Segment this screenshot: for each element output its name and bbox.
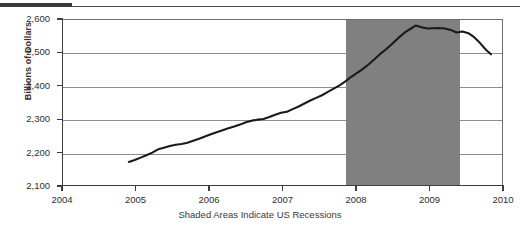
y-tick-label: 2,600 xyxy=(10,13,50,24)
x-tick-mark xyxy=(135,185,136,191)
x-tick-label: 2008 xyxy=(334,194,378,205)
y-tick-label: 2,300 xyxy=(10,113,50,124)
top-divider-heavy-segment xyxy=(0,3,72,7)
x-tick-mark xyxy=(208,185,209,191)
x-tick-label: 2010 xyxy=(481,194,520,205)
x-tick-mark xyxy=(61,185,62,191)
y-tick-label: 2,100 xyxy=(10,180,50,191)
x-tick-mark xyxy=(355,185,356,191)
plot-area xyxy=(62,19,503,186)
chart-figure: Billions of Dollars 2,1002,2002,3002,400… xyxy=(0,0,520,234)
chart-caption: Shaded Areas Indicate US Recessions xyxy=(0,209,520,220)
data-line-series xyxy=(63,20,502,185)
x-tick-mark xyxy=(429,185,430,191)
x-tick-label: 2007 xyxy=(261,194,305,205)
x-tick-mark xyxy=(502,185,503,191)
y-tick-label: 2,500 xyxy=(10,46,50,57)
y-tick-label: 2,200 xyxy=(10,147,50,158)
x-tick-label: 2006 xyxy=(187,194,231,205)
x-tick-mark xyxy=(282,185,283,191)
top-divider-rule xyxy=(0,6,520,7)
x-tick-label: 2004 xyxy=(40,194,84,205)
x-tick-label: 2009 xyxy=(408,194,452,205)
y-tick-label: 2,400 xyxy=(10,80,50,91)
x-tick-label: 2005 xyxy=(114,194,158,205)
